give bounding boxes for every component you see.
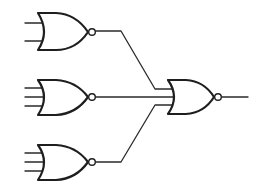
output-gate-inversion-bubble bbox=[215, 94, 222, 101]
nor-gate-3 bbox=[25, 145, 95, 180]
nor-gate-output bbox=[168, 80, 248, 114]
gate-1-body bbox=[38, 13, 88, 50]
wire-gate1-to-output bbox=[96, 31, 173, 89]
output-gate-body bbox=[168, 80, 214, 114]
nor-gate-2 bbox=[25, 80, 95, 115]
wire-gate3-to-output bbox=[96, 105, 173, 162]
gate-3-body bbox=[38, 145, 88, 180]
gate-2-inversion-bubble bbox=[89, 94, 96, 101]
nor-gate-1 bbox=[25, 13, 95, 50]
logic-circuit-diagram bbox=[0, 0, 262, 196]
gate-3-inversion-bubble bbox=[89, 159, 96, 166]
gate-1-inversion-bubble bbox=[89, 29, 96, 36]
gate-2-body bbox=[38, 80, 88, 115]
